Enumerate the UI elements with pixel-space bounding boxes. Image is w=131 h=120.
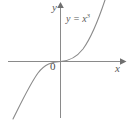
equation-exponent: 3 bbox=[87, 12, 90, 19]
x-axis-arrowhead bbox=[120, 58, 127, 65]
cubic-curve bbox=[13, 0, 105, 119]
cubic-function-graph: y x 0 y = x3 bbox=[0, 0, 131, 120]
y-axis-arrowhead bbox=[57, 2, 64, 8]
curve-equation-label: y = x3 bbox=[66, 13, 90, 24]
equation-lhs: y bbox=[66, 13, 70, 24]
x-axis-label: x bbox=[115, 63, 120, 74]
equation-equals-sign: = bbox=[73, 13, 80, 24]
y-axis-label: y bbox=[52, 2, 57, 13]
origin-label: 0 bbox=[50, 61, 56, 72]
